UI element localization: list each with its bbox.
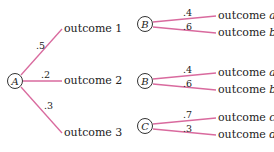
outcome-b1-b-label: outcome b [218, 27, 274, 38]
outcome-prefix: outcome [218, 26, 266, 39]
prob-a-1: .5 [36, 41, 45, 51]
prob-c-1: .7 [183, 110, 192, 120]
outcome-prefix: outcome [218, 66, 266, 79]
outcome-b2-a-label: outcome a [218, 67, 274, 78]
prob-a-3: .3 [44, 101, 53, 111]
outcome-d-label: outcome d [218, 129, 274, 140]
outcome-var: d [269, 128, 274, 141]
node-c-label: C [141, 121, 149, 132]
outcome-prefix: outcome [218, 128, 266, 141]
outcome-2-label: outcome 2 [64, 75, 122, 86]
prob-a-2: .2 [41, 70, 50, 80]
prob-b2-2: .6 [183, 79, 192, 89]
outcome-prefix: outcome [218, 83, 266, 96]
outcome-var: c [269, 111, 274, 124]
node-c: C [137, 118, 153, 134]
outcome-var: b [269, 83, 274, 96]
outcome-var: a [269, 66, 274, 79]
outcome-3-label: outcome 3 [64, 127, 122, 138]
node-a-label: A [11, 76, 18, 87]
node-b-middle: B [137, 73, 153, 89]
outcome-var: b [269, 26, 274, 39]
node-a: A [7, 73, 23, 89]
node-b-top-label: B [141, 19, 148, 30]
outcome-1-label: outcome 1 [64, 23, 122, 34]
prob-c-2: .3 [183, 124, 192, 134]
prob-b1-2: .6 [183, 22, 192, 32]
node-b-middle-label: B [141, 76, 148, 87]
prob-b1-1: .4 [183, 8, 192, 18]
outcome-prefix: outcome [218, 111, 266, 124]
outcome-c-label: outcome c [218, 112, 274, 123]
outcome-var: a [269, 9, 274, 22]
outcome-prefix: outcome [218, 9, 266, 22]
node-b-top: B [137, 16, 153, 32]
outcome-b1-a-label: outcome a [218, 10, 274, 21]
prob-b2-1: .4 [183, 65, 192, 75]
outcome-b2-b-label: outcome b [218, 84, 274, 95]
